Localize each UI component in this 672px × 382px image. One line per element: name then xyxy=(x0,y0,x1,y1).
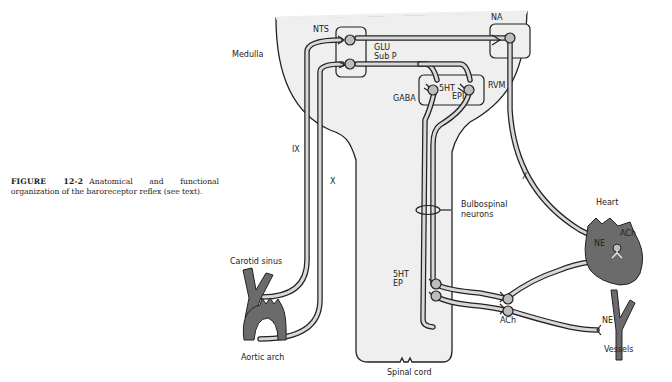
baroreceptor-reflex-diagram: Medulla NTS NA GLU Sub P GABA 5HT EPI RV… xyxy=(0,0,672,382)
vessels-label: Vessels xyxy=(604,345,633,354)
ne-heart-label: NE xyxy=(594,239,605,248)
glu-label: GLU xyxy=(374,43,390,52)
bulbospinal-label: Bulbospinal xyxy=(461,200,507,209)
5ht-spinal-label: 5HT xyxy=(393,270,409,279)
heart-label: Heart xyxy=(596,198,618,207)
nts-label: NTS xyxy=(313,25,329,34)
neurons-label: neurons xyxy=(461,210,493,219)
x-nerve-label: X xyxy=(330,177,336,186)
spinal-cord-label: Spinal cord xyxy=(387,368,432,377)
ne-vessels-label: NE xyxy=(602,316,613,325)
epi-label: EPI xyxy=(452,92,464,101)
ach-ganglion-label: ACh xyxy=(500,316,516,325)
gaba-label: GABA xyxy=(393,94,416,103)
ach-heart-label: ACh xyxy=(620,229,636,238)
na-label: NA xyxy=(491,13,503,22)
medulla-label: Medulla xyxy=(232,50,263,59)
aortic-arch-label: Aortic arch xyxy=(241,353,284,362)
x-vagus-label: X xyxy=(522,172,528,181)
carotid-sinus-label: Carotid sinus xyxy=(230,257,282,266)
subp-label: Sub P xyxy=(374,52,397,61)
ep-label: EP xyxy=(393,279,403,288)
rvm-label: RVM xyxy=(488,81,506,90)
ix-nerve-label: IX xyxy=(292,145,300,154)
